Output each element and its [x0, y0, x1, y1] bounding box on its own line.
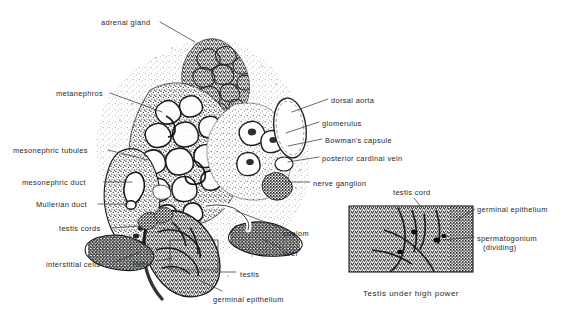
label-germinal-epithelium: germinal epithelium: [213, 295, 284, 304]
label-mullerian-duct: Mullerian duct: [36, 200, 87, 209]
label-metanephros: metanephros: [56, 89, 103, 98]
label-posterior-cardinal-vein: posterior cardinal vein: [322, 154, 402, 163]
label-bowmans-capsule: Bowman's capsule: [325, 136, 392, 145]
figure-root: adrenal gland metanephros mesonephric tu…: [0, 0, 572, 327]
label-dorsal-aorta: dorsal aorta: [331, 96, 374, 105]
label-liver-right: liver: [283, 249, 298, 258]
label-mesonephric-duct: mesonephric duct: [22, 178, 86, 187]
label-glomerulus: glomerulus: [322, 119, 362, 128]
inset-caption: Testis under high power: [363, 289, 459, 298]
label-testis: testis: [240, 270, 259, 279]
label-coelom: coelom: [283, 229, 309, 238]
label-inset-spermatogonium-sub: (dividing): [483, 243, 517, 252]
label-adrenal-gland: adrenal gland: [101, 18, 150, 27]
label-inset-germinal-epithelium: germinal epithelium: [477, 205, 548, 214]
label-nerve-ganglion: nerve ganglion: [313, 179, 366, 188]
label-inset-testis-cord: testis cord: [393, 188, 431, 197]
posterior-cardinal-vein-lumen: [275, 157, 293, 171]
label-liver-left: liver: [133, 259, 148, 268]
leader-adrenal-gland: [160, 22, 195, 42]
label-interstitial-cells: interstitial cells: [46, 260, 100, 269]
label-testis-cords: testis cords: [59, 224, 101, 233]
label-inset-spermatogonium: spermatogonium: [477, 234, 537, 243]
histology-plate-artwork: [0, 0, 572, 327]
label-mesonephric-tubules: mesonephric tubules: [13, 146, 88, 155]
main-specimen-drawing: [85, 26, 310, 304]
